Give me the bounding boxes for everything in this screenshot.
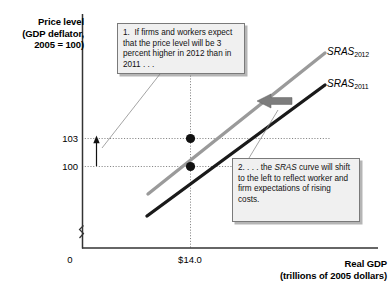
- y-axis-title: Price level (GDP deflator, 2005 = 100): [6, 16, 84, 51]
- origin-label: 0: [60, 254, 80, 265]
- y-tick-label-100: 100: [44, 161, 78, 172]
- y-tick-label-103: 103: [44, 133, 78, 144]
- callout-expectations: 1. If firms and workers expect that the …: [117, 23, 245, 74]
- callout-shift: 2. . . . the SRAS curve will shift to th…: [232, 158, 360, 222]
- sras-shift-figure: Price level (GDP deflator, 2005 = 100) R…: [0, 0, 391, 298]
- leftward-shift-arrow: [257, 94, 292, 108]
- callout-shift-part-1: 2. . . . the: [238, 163, 274, 172]
- sras-2012-label: SRAS2012: [327, 46, 369, 57]
- sras-2012-label-main: SRAS: [327, 46, 354, 57]
- x-tick-label-14: $14.0: [168, 254, 212, 265]
- sras-2012-label-year: 2012: [354, 51, 369, 58]
- equilibrium-point-2011: [186, 162, 195, 171]
- price-level-increase-arrow: [93, 136, 99, 167]
- equilibrium-point-2012: [186, 134, 195, 143]
- sras-2011-label-year: 2011: [354, 83, 368, 90]
- callout-2-leader-line: [246, 110, 278, 163]
- callout-1-leader-line: [102, 74, 160, 148]
- sras-2011-label-main: SRAS: [327, 78, 354, 89]
- sras-2011-label: SRAS2011: [327, 78, 369, 89]
- callout-shift-sras-term: SRAS: [274, 163, 296, 172]
- x-axis-title: Real GDP (trillions of 2005 dollars): [255, 258, 387, 281]
